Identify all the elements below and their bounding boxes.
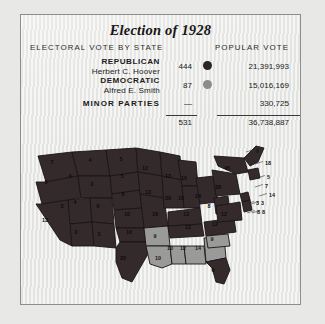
state-ev-label-nv: 3 bbox=[61, 203, 64, 209]
democratic-dot-icon bbox=[203, 80, 212, 89]
callout-ev-label-vt: 18 bbox=[265, 160, 271, 166]
state-ev-label-ut: 4 bbox=[74, 199, 77, 205]
callout-ev-label-nh: 5 bbox=[267, 174, 270, 180]
state-ev-label-va: 12 bbox=[221, 211, 227, 217]
candidate-name: Alfred E. Smith bbox=[21, 86, 160, 96]
minor-swatch-cell bbox=[197, 95, 217, 109]
table-row: REPUBLICAN Herbert C. Hoover 444 21,391,… bbox=[21, 57, 300, 76]
state-ev-label-pa: 38 bbox=[215, 184, 221, 190]
state-ev-label-fl: 6 bbox=[212, 267, 215, 273]
state-ev-label-oh: 24 bbox=[195, 193, 201, 199]
state-ev-label-ar: 9 bbox=[154, 233, 157, 239]
minor-parties-label: MINOR PARTIES bbox=[21, 95, 166, 109]
total-popular-votes: 36,738,887 bbox=[217, 115, 300, 127]
state-ev-label-co: 6 bbox=[97, 203, 100, 209]
electoral-map: 7513344343635581010201213189101329101515… bbox=[28, 133, 293, 296]
republican-popular-votes: 21,391,993 bbox=[217, 57, 300, 76]
state-ev-label-ok: 10 bbox=[126, 229, 132, 235]
republican-swatch-cell bbox=[197, 57, 217, 76]
minor-parties-popular: 330,725 bbox=[217, 95, 300, 109]
page-title: Election of 1928 bbox=[21, 22, 300, 39]
party-name: DEMOCRATIC bbox=[21, 76, 160, 86]
state-ev-label-nm: 3 bbox=[98, 231, 101, 237]
callout-ev-label-de: 3 bbox=[256, 200, 259, 206]
callout-ev-label-md: 8 bbox=[257, 209, 260, 215]
election-infographic-card: Election of 1928 ELECTORAL VOTE BY STATE… bbox=[20, 14, 301, 305]
state-ev-label-ga: 14 bbox=[195, 245, 201, 251]
state-ev-label-nc: 12 bbox=[212, 221, 218, 227]
callout-leader-line-ri bbox=[259, 194, 267, 197]
callout-ev-label-ma: 7 bbox=[265, 183, 268, 189]
state-ev-label-sc: 9 bbox=[211, 236, 214, 242]
state-ev-label-in: 15 bbox=[178, 195, 184, 201]
democratic-popular-votes: 15,016,169 bbox=[217, 76, 300, 95]
state-ev-label-wa: 7 bbox=[51, 159, 54, 165]
democratic-swatch-cell bbox=[197, 76, 217, 95]
minor-parties-electoral: — bbox=[166, 95, 197, 109]
state-ev-label-ia: 13 bbox=[145, 189, 151, 195]
candidate-name: Herbert C. Hoover bbox=[21, 67, 160, 77]
republican-party-cell: REPUBLICAN Herbert C. Hoover bbox=[21, 57, 166, 76]
state-ev-label-wi: 13 bbox=[165, 173, 171, 179]
state-ev-label-la: 10 bbox=[155, 255, 161, 261]
republican-electoral-votes: 444 bbox=[166, 57, 197, 76]
state-ev-label-mo: 18 bbox=[152, 211, 158, 217]
callout-ev-label-ri: 14 bbox=[269, 192, 275, 198]
callout-ev-label-ct: 3 bbox=[261, 200, 264, 206]
column-headers: ELECTORAL VOTE BY STATE POPULAR VOTE bbox=[21, 43, 300, 52]
state-ev-label-ks: 10 bbox=[124, 211, 130, 217]
callout-ev-label-me: 6 bbox=[256, 148, 259, 154]
state-ev-label-sd: 5 bbox=[121, 173, 124, 179]
total-swatch-cell bbox=[197, 115, 217, 127]
state-ev-label-wv: 8 bbox=[208, 203, 211, 209]
state-ev-label-ne: 8 bbox=[122, 191, 125, 197]
state-ev-label-il: 29 bbox=[165, 195, 171, 201]
state-ev-label-mn: 12 bbox=[142, 165, 148, 171]
republican-dot-icon bbox=[203, 61, 212, 70]
table-row: DEMOCRATIC Alfred E. Smith 87 15,016,169 bbox=[21, 76, 300, 95]
state-ev-label-ms: 10 bbox=[167, 245, 173, 251]
state-ev-label-id: 4 bbox=[69, 173, 72, 179]
callout-ev-label-nj: 8 bbox=[262, 209, 265, 215]
party-name: REPUBLICAN bbox=[21, 57, 160, 67]
state-ev-label-or: 5 bbox=[45, 179, 48, 185]
state-ev-label-az: 3 bbox=[75, 229, 78, 235]
state-ev-label-mi: 15 bbox=[181, 175, 187, 181]
state-ev-label-ky: 13 bbox=[183, 211, 189, 217]
total-label-cell bbox=[21, 115, 166, 127]
democratic-party-cell: DEMOCRATIC Alfred E. Smith bbox=[21, 76, 166, 95]
state-ev-label-wy: 3 bbox=[91, 181, 94, 187]
table-row: 531 36,738,887 bbox=[21, 115, 300, 127]
state-ev-label-ny: 45 bbox=[224, 165, 230, 171]
callout-leader-line-ma bbox=[255, 185, 263, 188]
state-ev-label-nd: 5 bbox=[120, 156, 123, 162]
state-ev-label-ca: 13 bbox=[42, 217, 48, 223]
column-header-popular: POPULAR VOTE bbox=[215, 43, 289, 52]
results-table: REPUBLICAN Herbert C. Hoover 444 21,391,… bbox=[21, 57, 300, 127]
column-header-electoral: ELECTORAL VOTE BY STATE bbox=[30, 43, 163, 52]
table-row: MINOR PARTIES — 330,725 bbox=[21, 95, 300, 109]
state-ev-label-mt: 4 bbox=[89, 157, 92, 163]
state-ev-label-al: 12 bbox=[180, 245, 186, 251]
democratic-electoral-votes: 87 bbox=[166, 76, 197, 95]
state-ev-label-tx: 20 bbox=[120, 255, 126, 261]
total-electoral-votes: 531 bbox=[166, 115, 197, 127]
state-ev-label-tn: 12 bbox=[185, 224, 191, 230]
